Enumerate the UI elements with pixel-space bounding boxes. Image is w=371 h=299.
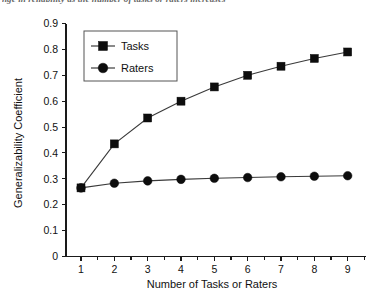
y-tick-label: 0.4 (43, 147, 58, 159)
x-tick-label: 3 (145, 263, 151, 275)
data-point-raters (343, 171, 352, 180)
legend-marker-circle (98, 63, 108, 73)
x-tick-label: 5 (211, 263, 217, 275)
figure: nge in reliability as the number of task… (0, 0, 371, 299)
x-tick-label: 6 (245, 263, 251, 275)
data-point-tasks (310, 54, 318, 62)
data-point-raters (77, 184, 86, 193)
y-tick-label: 0.5 (43, 121, 58, 133)
y-tick-label: 0.1 (43, 224, 58, 236)
x-tick-label: 7 (278, 263, 284, 275)
data-point-tasks (277, 62, 285, 70)
legend-label: Raters (121, 62, 154, 74)
legend-item-tasks[interactable]: Tasks (91, 40, 150, 52)
data-point-raters (110, 179, 119, 188)
data-point-raters (210, 174, 219, 183)
y-axis: 00.10.20.30.40.50.60.70.80.9 (43, 17, 66, 262)
y-tick-label: 0.9 (43, 17, 58, 29)
data-point-tasks (244, 71, 252, 79)
y-tick-label: 0.3 (43, 173, 58, 185)
data-point-raters (177, 175, 186, 184)
y-tick-label: 0.8 (43, 43, 58, 55)
chart-plot-area: 00.10.20.30.40.50.60.70.80.9 123456789 T… (0, 0, 371, 299)
x-tick-label: 9 (345, 263, 351, 275)
y-tick-label: 0.6 (43, 95, 58, 107)
data-point-tasks (344, 48, 352, 56)
x-axis-title: Number of Tasks or Raters (147, 278, 278, 290)
x-axis: 123456789 (66, 257, 366, 275)
series-raters (77, 171, 352, 192)
data-point-tasks (110, 140, 118, 148)
data-point-raters (277, 172, 286, 181)
data-point-raters (243, 173, 252, 182)
data-point-raters (143, 177, 152, 186)
y-tick-label: 0 (52, 250, 58, 262)
data-point-tasks (144, 114, 152, 122)
legend-marker-square (99, 42, 108, 51)
chart-legend: TasksRaters (84, 31, 177, 81)
legend-label: Tasks (121, 40, 150, 52)
y-tick-label: 0.2 (43, 198, 58, 210)
data-point-tasks (177, 97, 185, 105)
data-point-tasks (210, 83, 218, 91)
legend-item-raters[interactable]: Raters (91, 62, 154, 74)
x-tick-label: 1 (78, 263, 84, 275)
x-tick-label: 2 (111, 263, 117, 275)
y-tick-label: 0.7 (43, 69, 58, 81)
x-tick-label: 8 (311, 263, 317, 275)
generalizability-line-chart: 00.10.20.30.40.50.60.70.80.9 123456789 T… (0, 0, 371, 299)
y-axis-title: Generalizability Coefficient (12, 78, 24, 208)
x-tick-label: 4 (178, 263, 184, 275)
data-point-raters (310, 172, 319, 181)
